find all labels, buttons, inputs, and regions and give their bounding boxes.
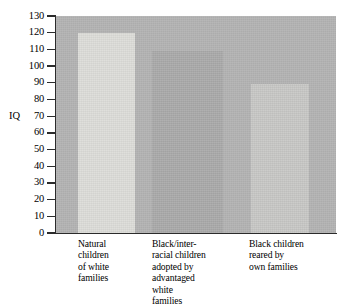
x-category-label-black-children-own-families: Black children reared by own families xyxy=(249,238,344,272)
y-tick-label-60: 60 xyxy=(4,127,44,137)
y-tick-label-50: 50 xyxy=(4,144,44,154)
bar-texture-2 xyxy=(251,84,309,233)
y-tick-mark-40 xyxy=(47,166,55,167)
y-tick-label-90: 90 xyxy=(4,77,44,87)
y-tick-mark-60 xyxy=(47,132,55,133)
y-axis-line xyxy=(55,15,56,234)
y-tick-label-10: 10 xyxy=(4,211,44,221)
y-tick-mark-20 xyxy=(47,199,55,200)
y-tick-mark-110 xyxy=(47,49,55,50)
x-axis-line xyxy=(55,233,337,234)
y-tick-label-70: 70 xyxy=(4,111,44,121)
bar-natural-children-white-families[interactable] xyxy=(78,33,135,233)
y-tick-label-120: 120 xyxy=(4,27,44,37)
y-tick-label-130: 130 xyxy=(4,11,44,21)
y-tick-label-100: 100 xyxy=(4,61,44,71)
y-tick-mark-90 xyxy=(47,82,55,83)
x-category-label-natural-children-white-families: Natural children of white families xyxy=(78,238,148,284)
y-tick-label-30: 30 xyxy=(4,177,44,187)
y-tick-mark-30 xyxy=(47,182,55,183)
y-tick-mark-130 xyxy=(47,15,55,16)
y-tick-label-40: 40 xyxy=(4,161,44,171)
y-tick-mark-80 xyxy=(47,99,55,100)
y-tick-label-80: 80 xyxy=(4,94,44,104)
plot-area xyxy=(56,16,336,233)
bar-black-interracial-adopted[interactable] xyxy=(152,51,223,233)
y-tick-mark-10 xyxy=(47,216,55,217)
y-tick-mark-50 xyxy=(47,149,55,150)
bar-black-children-own-families[interactable] xyxy=(251,84,309,233)
y-tick-mark-100 xyxy=(47,65,55,66)
y-tick-label-20: 20 xyxy=(4,194,44,204)
y-tick-label-110: 110 xyxy=(4,44,44,54)
x-category-label-black-interracial-adopted: Black/inter- racial children adopted by … xyxy=(152,238,230,306)
y-tick-mark-0 xyxy=(47,232,55,233)
bar-texture-1 xyxy=(152,51,223,233)
y-tick-mark-120 xyxy=(47,32,55,33)
iq-bar-chart: IQ 1301201101009080706050403020100 Natur… xyxy=(0,0,356,307)
y-tick-label-0: 0 xyxy=(4,228,44,238)
bar-texture-0 xyxy=(78,33,135,233)
y-tick-mark-70 xyxy=(47,116,55,117)
